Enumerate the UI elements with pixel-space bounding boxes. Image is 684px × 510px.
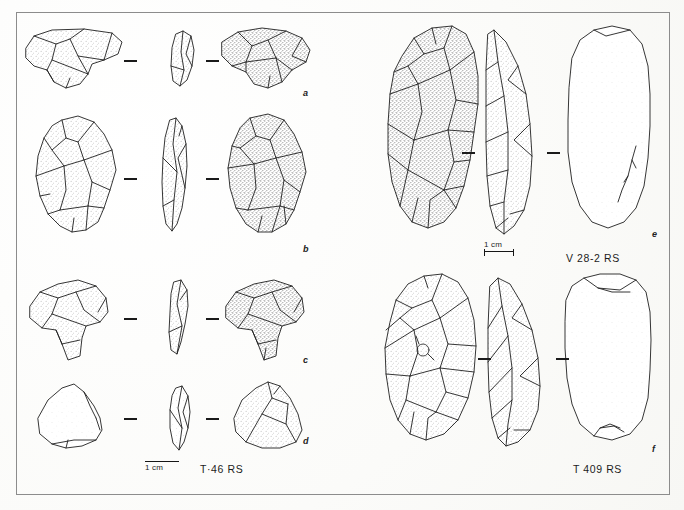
catalog-label-left-group: T·46 RS <box>200 463 243 475</box>
view-separator-dash-b-1 <box>124 178 137 180</box>
scale-bar-label-left: 1 cm <box>145 463 179 472</box>
scale-bar-line-left <box>145 461 179 462</box>
catalog-label-item-e: V 28-2 RS <box>566 252 620 264</box>
view-separator-dash-e-2 <box>547 152 560 154</box>
view-separator-dash-f-1 <box>478 358 491 360</box>
view-separator-dash-d-1 <box>124 418 137 420</box>
item-letter-a: a <box>303 88 308 98</box>
view-separator-dash-c-2 <box>206 318 219 320</box>
scale-bar-item-e: 1 cm <box>484 240 514 252</box>
view-separator-dash-d-2 <box>206 418 219 420</box>
scale-bar-line-item-e <box>484 251 514 252</box>
item-letter-d: d <box>303 436 309 446</box>
view-separator-dash-e-1 <box>462 152 475 154</box>
item-letter-e: e <box>652 229 657 239</box>
view-separator-dash-c-1 <box>124 318 137 320</box>
view-separator-dash-a-1 <box>124 60 137 62</box>
view-separator-dash-a-2 <box>206 60 219 62</box>
item-letter-c: c <box>303 355 308 365</box>
view-separator-dash-f-2 <box>556 358 569 360</box>
view-separator-dash-b-2 <box>206 178 219 180</box>
item-letter-b: b <box>303 244 309 254</box>
item-letter-f: f <box>652 444 655 454</box>
lithics-figure-plate: a b c d e f 1 cm T·46 RS 1 cm V 28-2 RS … <box>0 0 684 510</box>
scale-bar-left-group: 1 cm <box>145 461 179 472</box>
catalog-label-item-f: T 409 RS <box>573 463 622 475</box>
scale-bar-label-item-e: 1 cm <box>484 240 514 249</box>
